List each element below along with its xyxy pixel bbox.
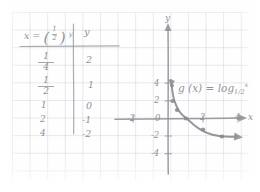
data-point xyxy=(175,108,179,112)
function-label-eq: = xyxy=(206,82,215,94)
y-tick-label-0: 0 xyxy=(155,114,160,123)
data-point xyxy=(170,99,174,103)
y-tick-label-minus-4: -4 xyxy=(151,149,159,158)
data-point xyxy=(220,135,225,139)
data-point xyxy=(201,127,206,131)
y-tick-label-2: 2 xyxy=(154,96,159,105)
x-tick-label-4: 4 xyxy=(235,113,240,122)
y-axis-arrowhead xyxy=(165,23,172,31)
data-point xyxy=(170,84,174,88)
function-label-log: log xyxy=(218,82,234,94)
y-tick-label-minus-2: -2 xyxy=(151,131,159,140)
function-label: g (x) = log1/2x xyxy=(178,82,248,93)
function-label-arg: (x) xyxy=(188,82,202,94)
data-point xyxy=(184,117,188,121)
curve-lower-arrowhead xyxy=(234,132,243,140)
figure-canvas: x = ( 1 2 ) y y 1 4 1 2 1 2 4 2 1 0 -1 xyxy=(0,0,260,192)
y-axis-label: y xyxy=(165,14,170,23)
function-label-g: g xyxy=(178,82,185,94)
function-label-x: x xyxy=(245,81,249,89)
y-tick-label-4: 4 xyxy=(154,79,159,88)
x-tick-label-minus-2: -2 xyxy=(127,114,135,123)
x-axis-label: x xyxy=(248,113,253,122)
function-label-base: 1/2 xyxy=(234,88,244,96)
coordinate-plane xyxy=(0,0,260,192)
x-tick-label-2: 2 xyxy=(200,113,205,122)
